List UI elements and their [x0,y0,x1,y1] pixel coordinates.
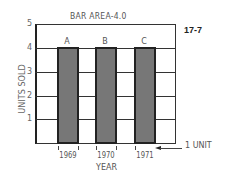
arrow-line [160,148,182,149]
bar-label-a: A [57,37,77,46]
x-tick-1970: 1970 [96,151,116,160]
y-tick-5: 5 [22,19,32,28]
x-tickmark [58,146,59,150]
bar-label-c: C [134,37,154,46]
bar-label-b: B [95,37,115,46]
figure-number: 17-7 [184,25,202,35]
x-tickmark [96,146,97,150]
bar-b [95,47,117,144]
x-tickmark [78,146,79,150]
x-tickmark [135,146,136,150]
x-axis-label: YEAR [96,163,117,172]
y-axis-label: UNITS SOLD [17,62,27,116]
bar-a [57,47,79,144]
x-tick-1969: 1969 [58,151,78,160]
bar-c [134,47,156,144]
x-tick-1971: 1971 [135,151,155,160]
unit-annotation: 1 UNIT [185,141,212,150]
x-tickmark [116,146,117,150]
y-tick-4: 4 [22,43,32,52]
chart-title: BAR AREA-4.0 [70,11,127,21]
